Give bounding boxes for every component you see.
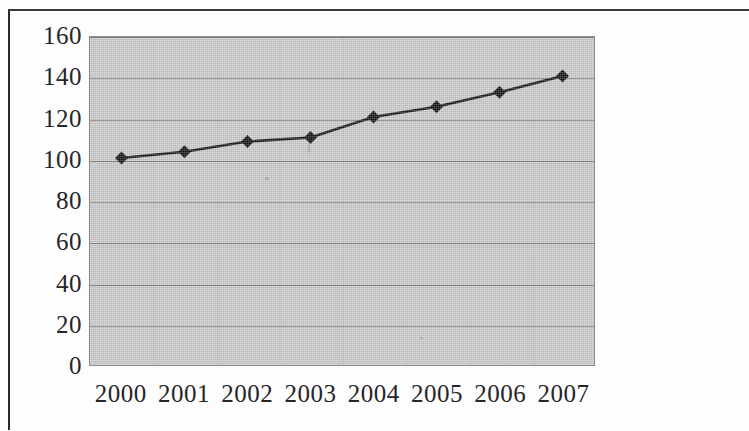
- scanned-page: 020406080100120140160 200020012002200320…: [0, 0, 749, 431]
- data-point-marker: [178, 145, 191, 158]
- data-series-line: [90, 37, 594, 365]
- y-tick-label: 80: [20, 188, 82, 213]
- y-tick-label: 120: [20, 106, 82, 131]
- y-tick-label: 40: [20, 271, 82, 296]
- data-point-marker: [367, 110, 380, 123]
- y-tick-label: 0: [20, 353, 82, 378]
- x-tick-label: 2007: [526, 380, 600, 408]
- data-point-marker: [241, 135, 254, 148]
- y-axis-tick-labels: 020406080100120140160: [18, 0, 82, 420]
- y-tick-label: 160: [20, 23, 82, 48]
- data-point-marker: [493, 86, 506, 99]
- line-chart-figure: 020406080100120140160 200020012002200320…: [0, 0, 640, 420]
- series-markers: [115, 69, 569, 164]
- data-point-marker: [304, 131, 317, 144]
- y-tick-label: 60: [20, 229, 82, 254]
- data-point-marker: [556, 69, 569, 82]
- data-point-marker: [115, 151, 128, 164]
- data-point-marker: [430, 100, 443, 113]
- plot-area: [89, 36, 595, 366]
- y-tick-label: 100: [20, 147, 82, 172]
- series-polyline: [121, 76, 562, 158]
- y-tick-label: 20: [20, 312, 82, 337]
- x-axis-tick-labels: 20002001200220032004200520062007: [89, 380, 595, 414]
- y-tick-label: 140: [20, 64, 82, 89]
